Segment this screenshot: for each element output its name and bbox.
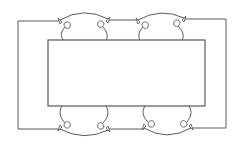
frame-diagram (0, 0, 242, 150)
bulge-top-left-a (61, 26, 66, 41)
hook-loop-icon (64, 122, 70, 129)
bulge-bottom-left-a (60, 106, 66, 124)
arc-bottom-right (144, 128, 191, 135)
bulge-top-left-b (102, 26, 107, 41)
bulge-bottom-left-b (102, 106, 108, 124)
hook-loop-icon (174, 20, 180, 27)
arc-top-right (138, 13, 184, 20)
hook-loop-icon (148, 121, 154, 128)
hook-loop-icon (98, 123, 104, 130)
bulge-top-right-b (178, 26, 183, 41)
arc-top-left (60, 13, 108, 20)
hook-loop-icon (181, 121, 187, 128)
hook-loop-icon (64, 22, 70, 29)
diagram-canvas (0, 0, 242, 150)
hook-loop-icon (98, 21, 104, 28)
hook-loop-icon (142, 22, 148, 29)
arc-bottom-left (60, 129, 108, 136)
bulge-top-right-a (139, 26, 144, 41)
inner-block (48, 40, 205, 106)
